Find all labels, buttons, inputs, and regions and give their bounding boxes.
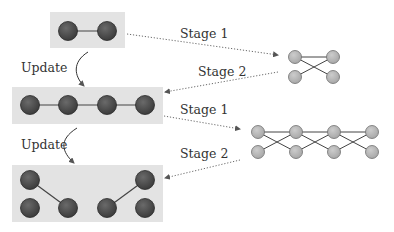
stage1-label-mid: Stage 1: [180, 104, 228, 117]
stage2-label-mid: Stage 2: [180, 148, 228, 161]
update-arrow-1: [76, 52, 88, 86]
light-graph-node: [290, 146, 303, 159]
dark-graph-node: [136, 171, 155, 190]
light-graph-node: [327, 71, 340, 84]
dark-graph-node: [59, 22, 78, 41]
dark-graph-node: [21, 199, 40, 218]
light-graph-node: [366, 126, 379, 139]
dark-graph-node: [98, 22, 117, 41]
dark-graph-node: [21, 96, 40, 115]
light-graph-node: [252, 126, 265, 139]
update-label-1: Update: [21, 62, 67, 75]
dark-graph-node: [98, 96, 117, 115]
dark-graph-node: [21, 171, 40, 190]
dark-graph-node: [136, 96, 155, 115]
dark-graph-node: [59, 96, 78, 115]
dark-graph-node: [59, 199, 78, 218]
light-graph-node: [327, 51, 340, 64]
update-label-2: Update: [21, 139, 67, 152]
light-graph-node: [328, 146, 341, 159]
stage2-label-top: Stage 2: [198, 66, 246, 79]
light-graph-node: [289, 71, 302, 84]
light-graph-node: [366, 146, 379, 159]
stage2-arrow-mid: [165, 160, 240, 178]
dark-graph-node: [136, 199, 155, 218]
dark-graph-node: [98, 199, 117, 218]
graph-boxes: [12, 12, 163, 222]
stage1-label-top: Stage 1: [180, 28, 228, 41]
stage1-arrow-mid: [164, 116, 240, 129]
light-graph-node: [252, 146, 265, 159]
light-graph-node: [289, 51, 302, 64]
light-graph-node: [328, 126, 341, 139]
multilevel-graph-diagram: Update Update Stage 1 Stage 2 Stage 1 St…: [0, 0, 394, 232]
light-graph-node: [290, 126, 303, 139]
